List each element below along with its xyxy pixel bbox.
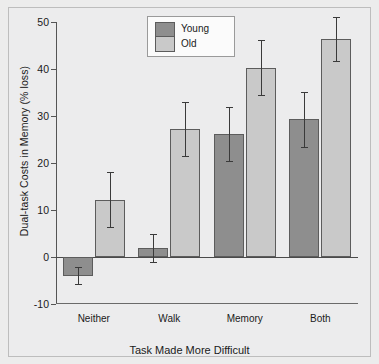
error-bar-memory-old (261, 40, 262, 95)
error-bar-neither-young (78, 267, 79, 284)
error-bar-both-young (304, 92, 305, 147)
y-tick-label: -10 (34, 298, 49, 310)
error-cap (150, 262, 157, 263)
x-tick-label-memory: Memory (227, 313, 263, 324)
y-tick-label: 20 (37, 157, 49, 169)
y-tick-mark (51, 210, 56, 211)
bar-both-old (321, 39, 351, 257)
error-cap (75, 284, 82, 285)
y-tick-label: 50 (37, 16, 49, 28)
plot-area: -1001020304050 NeitherWalkMemoryBoth (56, 22, 358, 304)
x-tick-label-neither: Neither (78, 313, 110, 324)
error-cap (333, 61, 340, 62)
y-tick-label: 30 (37, 110, 49, 122)
error-bar-memory-young (229, 107, 230, 162)
legend-swatches (155, 22, 175, 52)
error-cap (226, 107, 233, 108)
error-bar-walk-old (185, 102, 186, 157)
error-bar-neither-old (110, 172, 111, 227)
y-tick-label: 0 (43, 251, 49, 263)
bar-memory-old (246, 68, 276, 257)
error-cap (258, 40, 265, 41)
legend-label-young: Young (181, 23, 209, 34)
error-bar-both-old (336, 17, 337, 61)
error-cap (75, 267, 82, 268)
error-cap (301, 92, 308, 93)
zero-baseline (56, 257, 358, 258)
error-cap (258, 95, 265, 96)
x-tick-label-both: Both (310, 313, 331, 324)
x-axis-line (56, 303, 358, 304)
legend-swatch-old (156, 37, 174, 51)
error-cap (150, 234, 157, 235)
error-cap (107, 172, 114, 173)
x-axis-title: Task Made More Difficult (0, 344, 379, 356)
error-cap (301, 147, 308, 148)
error-cap (226, 161, 233, 162)
figure: Dual-task Costs in Memory (% loss) -1001… (0, 0, 379, 364)
y-tick-label: 40 (37, 63, 49, 75)
legend-label-old: Old (181, 38, 197, 49)
error-cap (107, 227, 114, 228)
y-axis-title: Dual-task Costs in Memory (% loss) (18, 41, 30, 261)
error-cap (182, 156, 189, 157)
y-tick-mark (51, 22, 56, 23)
y-tick-label: 10 (37, 204, 49, 216)
x-tick-label-walk: Walk (158, 313, 180, 324)
y-tick-mark (51, 304, 56, 305)
error-bar-walk-young (153, 234, 154, 262)
y-tick-mark (51, 116, 56, 117)
error-cap (333, 17, 340, 18)
legend-swatch-young (156, 23, 174, 37)
y-tick-mark (51, 163, 56, 164)
y-axis-line (56, 22, 57, 304)
error-cap (182, 102, 189, 103)
y-tick-mark (51, 69, 56, 70)
legend: Young Old (147, 16, 235, 57)
y-tick-mark (51, 257, 56, 258)
